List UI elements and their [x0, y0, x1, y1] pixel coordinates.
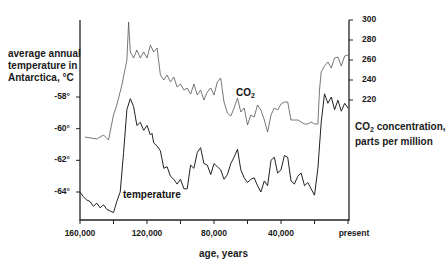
right-y-tick-label: 240	[362, 74, 376, 84]
left-y-tick-label: -64°	[30, 186, 70, 196]
left-y-tick-label: -58°	[30, 91, 70, 101]
left-y-tick-label: -60°	[30, 123, 70, 133]
right-y-axis-label: CO2 concentration, parts per million	[355, 121, 447, 148]
x-tick-label: 40,000	[256, 228, 306, 238]
x-tick-label: present	[329, 228, 379, 238]
co2-line	[85, 22, 348, 140]
right-y-axis-label-pre: CO	[355, 121, 370, 132]
right-y-tick-label: 300	[362, 14, 376, 24]
temperature-line	[80, 94, 348, 213]
co2-series-label: CO2	[236, 87, 255, 99]
right-y-tick-label: 280	[362, 34, 376, 44]
x-tick-label: 160,000	[55, 228, 105, 238]
right-y-tick-label: 260	[362, 54, 376, 64]
co2-label-sub: 2	[251, 92, 255, 99]
co2-label-pre: CO	[236, 87, 251, 98]
right-y-tick-label: 220	[362, 94, 376, 104]
temperature-series-label: temperature	[123, 189, 181, 200]
plot-lines	[80, 22, 348, 213]
left-y-axis-label: average annual temperature in Antarctica…	[8, 48, 108, 84]
x-axis-label: age, years	[0, 248, 447, 260]
left-y-tick-label: -62°	[30, 154, 70, 164]
x-tick-label: 80,000	[189, 228, 239, 238]
x-tick-label: 120,000	[122, 228, 172, 238]
